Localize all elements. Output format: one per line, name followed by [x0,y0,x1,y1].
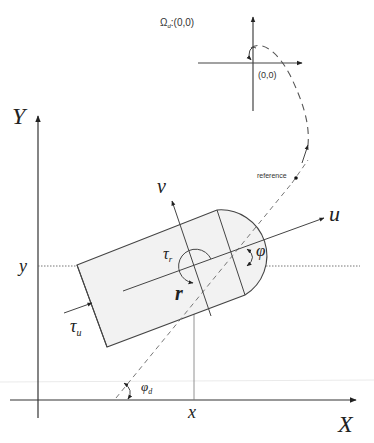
reference-path-curve [251,46,308,145]
reference-path: reference [251,46,308,183]
surge-force-arrow [64,303,92,313]
desired-heading-arc [124,383,130,399]
y-axis-label: Y [12,103,28,129]
position-x-label: x [187,402,196,422]
surge-axis-label: u [329,201,340,226]
yaw-rate-label: r [175,282,183,304]
target-origin-label: (0,0) [258,70,277,80]
target-set-label: Ωd:(0,0) [160,17,194,29]
position-y-label: y [17,256,27,276]
sway-axis-label: v [157,175,166,197]
target-frame: (0,0) Ωd:(0,0) [160,17,302,111]
vehicle-hull [77,210,267,347]
surge-force: τu [64,303,92,338]
reference-heading-line [292,160,308,183]
surge-force-label: τu [70,316,81,338]
vehicle-kinematics-diagram: Y X y x u v τr r φ τu φd [0,0,374,443]
heading-angle-label: φ [256,241,265,260]
vehicle-body [77,210,267,347]
reference-point [294,176,298,180]
reference-label: reference [257,172,287,179]
x-axis-label: X [337,411,354,437]
reference-path-arrow [302,145,308,163]
desired-heading-angle: φd [124,379,153,399]
scan-artifact-line [0,380,374,382]
